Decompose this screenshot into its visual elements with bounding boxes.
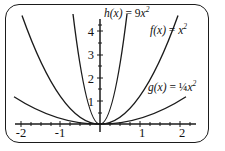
x-tick-label--1: -1 (50, 126, 70, 141)
label-g-arg: (x) (154, 81, 167, 93)
x-tick-label-1: 1 (132, 126, 152, 141)
x-tick-label-2: 2 (172, 126, 192, 141)
parabola-comparison-figure: h(x) = 9x2 f(x) = x2 g(x) = ¼x2 -2 -1 1 … (0, 0, 225, 151)
y-tick-label-1: 1 (80, 95, 94, 110)
label-h-arg: (x) (110, 7, 123, 19)
label-f-function: f(x) = x2 (150, 22, 187, 36)
label-g-exponent: 2 (193, 79, 197, 88)
label-g-equals: = (167, 81, 179, 93)
y-tick-label-4: 4 (80, 25, 94, 40)
label-g-function: g(x) = ¼x2 (148, 79, 196, 93)
label-h-exponent: 2 (146, 5, 150, 14)
x-tick-label--2: -2 (11, 126, 31, 141)
y-tick-label-3: 3 (80, 48, 94, 63)
label-h-equals: = (123, 7, 135, 19)
y-tick-label-2: 2 (80, 72, 94, 87)
label-f-exponent: 2 (183, 22, 187, 31)
label-h-function: h(x) = 9x2 (104, 5, 149, 19)
label-f-arg: (x) (153, 24, 166, 36)
label-f-equals: = (166, 24, 178, 36)
